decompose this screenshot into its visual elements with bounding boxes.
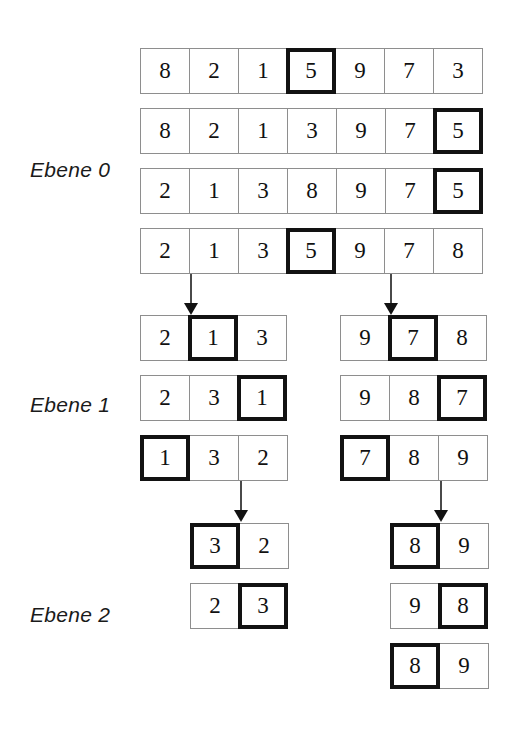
array-cell-highlighted: 7 (340, 435, 390, 481)
array-cell: 9 (439, 523, 489, 569)
down-arrow-icon (190, 274, 192, 304)
array-cell: 8 (389, 435, 439, 481)
array-cell-highlighted: 1 (188, 315, 238, 361)
array-cell: 9 (439, 643, 489, 689)
array-cell: 9 (340, 375, 390, 421)
array-cell: 9 (390, 583, 440, 629)
array-cell: 3 (287, 108, 337, 154)
figure-canvas: Ebene 0Ebene 1Ebene 28215973821397521389… (0, 0, 518, 755)
array-cell-highlighted: 5 (433, 168, 483, 214)
array-cell-highlighted: 8 (390, 643, 440, 689)
array-cell-highlighted: 5 (286, 228, 336, 274)
array-cell: 2 (238, 435, 288, 481)
array-cell-highlighted: 1 (237, 375, 287, 421)
array-row: 89 (390, 643, 489, 689)
array-cell: 3 (237, 315, 287, 361)
array-cell: 7 (384, 48, 434, 94)
array-row: 978 (340, 315, 487, 361)
array-cell: 7 (385, 108, 435, 154)
array-cell: 9 (335, 48, 385, 94)
array-cell-highlighted: 3 (238, 583, 288, 629)
array-cell: 2 (140, 315, 190, 361)
array-cell: 9 (336, 108, 386, 154)
array-row: 8215973 (140, 48, 483, 94)
array-cell: 8 (389, 375, 439, 421)
array-row: 213 (140, 315, 287, 361)
array-cell-highlighted: 1 (140, 435, 190, 481)
array-cell: 1 (238, 48, 288, 94)
array-row: 231 (140, 375, 287, 421)
array-cell: 3 (189, 435, 239, 481)
array-cell: 2 (140, 375, 190, 421)
array-cell-highlighted: 5 (286, 48, 336, 94)
array-cell: 7 (385, 168, 435, 214)
array-row: 2135978 (140, 228, 483, 274)
array-cell: 9 (438, 435, 488, 481)
array-cell: 8 (287, 168, 337, 214)
array-cell-highlighted: 3 (190, 523, 240, 569)
array-cell: 9 (336, 168, 386, 214)
array-cell: 1 (238, 108, 288, 154)
array-cell-highlighted: 7 (437, 375, 487, 421)
array-cell: 3 (238, 228, 288, 274)
level-label-ebene-2: Ebene 2 (30, 603, 110, 627)
array-row: 98 (390, 583, 488, 629)
array-cell: 9 (335, 228, 385, 274)
array-cell-highlighted: 8 (390, 523, 440, 569)
array-cell: 8 (140, 108, 190, 154)
array-cell: 8 (437, 315, 487, 361)
level-label-ebene-1: Ebene 1 (30, 393, 110, 417)
array-cell: 3 (433, 48, 483, 94)
array-cell: 2 (239, 523, 289, 569)
level-label-ebene-0: Ebene 0 (30, 158, 110, 182)
array-row: 32 (190, 523, 289, 569)
array-cell-highlighted: 5 (433, 108, 483, 154)
array-row: 132 (140, 435, 288, 481)
array-cell-highlighted: 7 (388, 315, 438, 361)
array-row: 789 (340, 435, 488, 481)
array-row: 8213975 (140, 108, 483, 154)
array-cell: 7 (384, 228, 434, 274)
down-arrow-icon (390, 274, 392, 304)
array-cell: 1 (189, 168, 239, 214)
array-cell: 2 (189, 108, 239, 154)
array-cell: 2 (190, 583, 240, 629)
array-cell: 1 (189, 228, 239, 274)
array-row: 2138975 (140, 168, 483, 214)
array-cell: 8 (433, 228, 483, 274)
array-cell: 3 (238, 168, 288, 214)
array-cell: 2 (189, 48, 239, 94)
down-arrow-icon (440, 481, 442, 511)
array-row: 23 (190, 583, 288, 629)
array-cell: 9 (340, 315, 390, 361)
array-cell: 8 (140, 48, 190, 94)
array-row: 89 (390, 523, 489, 569)
array-cell: 3 (189, 375, 239, 421)
array-cell: 2 (140, 168, 190, 214)
array-cell-highlighted: 8 (438, 583, 488, 629)
down-arrow-icon (240, 481, 242, 511)
array-cell: 2 (140, 228, 190, 274)
array-row: 987 (340, 375, 487, 421)
